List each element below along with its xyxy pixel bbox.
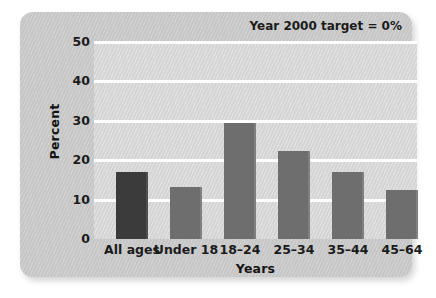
- y-tick-40: 40: [32, 75, 90, 88]
- x-axis-ticks: All ages Under 18 18–24 25–34 35–44 45–6…: [94, 243, 417, 263]
- plot-area: [94, 42, 417, 239]
- x-axis-title: Years: [94, 261, 417, 276]
- bar-35-44[interactable]: [332, 172, 364, 239]
- figure-root: Year 2000 target = 0% Percent 50 40 30 2…: [0, 0, 436, 298]
- target-annotation: Year 2000 target = 0%: [250, 19, 403, 33]
- bar-under-18[interactable]: [170, 187, 202, 239]
- bar-25-34[interactable]: [278, 151, 310, 239]
- x-tick-45-64: 45–64: [359, 243, 436, 257]
- y-tick-50: 50: [32, 36, 90, 49]
- bars-layer: [94, 42, 417, 239]
- y-axis-ticks: 50 40 30 20 10 0: [28, 42, 90, 239]
- bar-18-24[interactable]: [224, 123, 256, 239]
- bar-45-64[interactable]: [386, 190, 418, 239]
- bar-all-ages[interactable]: [116, 172, 148, 239]
- chart-card: Year 2000 target = 0% Percent 50 40 30 2…: [20, 12, 412, 277]
- y-tick-0: 0: [32, 233, 90, 246]
- y-tick-10: 10: [32, 193, 90, 206]
- y-tick-30: 30: [32, 115, 90, 128]
- y-tick-20: 20: [32, 154, 90, 167]
